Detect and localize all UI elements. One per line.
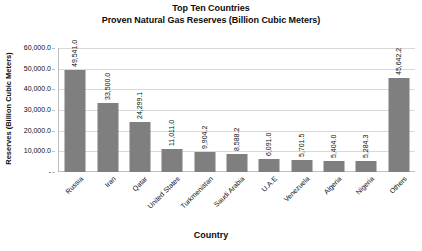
bar[interactable] xyxy=(356,161,377,172)
bar[interactable] xyxy=(65,70,86,172)
x-axis-category-label: Venezuela xyxy=(282,175,311,204)
y-axis-tick-mark xyxy=(52,89,55,90)
bar-slot: 6,091.0 xyxy=(253,48,285,172)
x-axis-category-label: Qatar xyxy=(131,175,149,193)
bar[interactable] xyxy=(324,161,345,172)
bar-slot: 45,642.2 xyxy=(383,48,415,172)
bar-slot: 8,588.2 xyxy=(221,48,253,172)
y-axis-tick-mark xyxy=(52,69,55,70)
bar-slot: 33,500.0 xyxy=(91,48,123,172)
y-axis-tick-label: 50,000.0 xyxy=(24,65,51,73)
y-axis-tick-label: 30,000.0 xyxy=(24,106,51,114)
bar-slot: 5,404.0 xyxy=(318,48,350,172)
bar-value-label: 8,588.2 xyxy=(233,128,240,151)
x-axis-category-label: Saudi Arabia xyxy=(213,175,247,209)
x-axis-category-label: Nigeria xyxy=(355,175,376,196)
bar-slot: 5,701.5 xyxy=(286,48,318,172)
y-axis-tick-mark xyxy=(52,131,55,132)
bar-chart: Top Ten Countries Proven Natural Gas Res… xyxy=(0,0,422,251)
x-axis-category-labels: RussiaIranQatarUnited StatesTurkmenistan… xyxy=(59,175,415,227)
y-axis-tick-mark xyxy=(52,110,55,111)
bar[interactable] xyxy=(226,154,247,172)
y-axis-tick-label: 20,000.0 xyxy=(24,127,51,135)
bar-slot: 11,011.0 xyxy=(156,48,188,172)
x-axis-category-label: Others xyxy=(388,175,409,196)
bar-slot: 5,284.3 xyxy=(350,48,382,172)
y-axis-tick-mark xyxy=(52,151,55,152)
y-axis-tick-label: 60,000.0 xyxy=(24,44,51,52)
bar-value-label: 49,541.0 xyxy=(71,39,78,66)
bar-series: 49,541.033,500.024,299.111,011.09,904.28… xyxy=(59,48,415,172)
x-axis-title: Country xyxy=(0,230,422,240)
y-axis-tick-mark xyxy=(52,48,55,49)
x-axis-category-label: United States xyxy=(147,175,182,210)
bar-value-label: 5,701.5 xyxy=(298,134,305,157)
chart-title: Top Ten Countries Proven Natural Gas Res… xyxy=(0,3,422,26)
y-axis-tick-label: 40,000.0 xyxy=(24,85,51,93)
bar[interactable] xyxy=(162,149,183,172)
bar[interactable] xyxy=(194,152,215,172)
bar[interactable] xyxy=(129,122,150,172)
bar-slot: 49,541.0 xyxy=(59,48,91,172)
bar[interactable] xyxy=(259,159,280,172)
y-axis-tick-labels: -10,000.020,000.030,000.040,000.050,000.… xyxy=(14,48,55,172)
x-axis-category-label: U.A.E xyxy=(261,175,280,194)
bar-slot: 9,904.2 xyxy=(188,48,220,172)
y-axis-tick-label: 10,000.0 xyxy=(24,147,51,155)
y-axis-tick-mark xyxy=(52,172,55,173)
bar[interactable] xyxy=(97,103,118,172)
bar-value-label: 11,011.0 xyxy=(168,120,175,146)
bar-value-label: 33,500.0 xyxy=(104,73,111,100)
y-axis-tick-label: - xyxy=(49,168,51,176)
bar[interactable] xyxy=(388,78,409,172)
bar-slot: 24,299.1 xyxy=(124,48,156,172)
bar-value-label: 45,642.2 xyxy=(395,47,402,74)
x-axis-category-label: Russia xyxy=(64,175,85,196)
x-axis-category-label: Turkmenistan xyxy=(179,175,214,210)
chart-title-line-1: Top Ten Countries xyxy=(172,3,249,13)
chart-title-line-2: Proven Natural Gas Reserves (Billion Cub… xyxy=(0,15,422,27)
x-axis-category-label: Algeria xyxy=(322,175,343,196)
x-axis-category-label: Iran xyxy=(103,175,117,189)
bar-value-label: 6,091.0 xyxy=(266,133,273,156)
bar[interactable] xyxy=(291,160,312,172)
bar-value-label: 24,299.1 xyxy=(136,92,143,119)
y-axis-title: Reserves (Billion Cubic Meters) xyxy=(2,38,14,178)
bar-value-label: 9,904.2 xyxy=(201,125,208,148)
bar-value-label: 5,284.3 xyxy=(363,135,370,158)
bar-value-label: 5,404.0 xyxy=(330,134,337,157)
